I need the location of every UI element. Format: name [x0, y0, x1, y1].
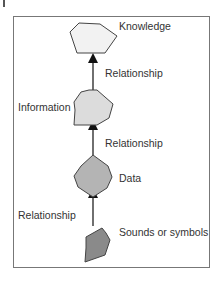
edge-label: Relationship: [18, 209, 76, 221]
node-label-information: Information: [18, 101, 71, 113]
data-shape: [74, 155, 112, 197]
node-label-sounds: Sounds or symbols: [119, 226, 208, 238]
node-label-data: Data: [119, 172, 141, 184]
knowledge-shape: [70, 23, 117, 53]
sounds-shape: [85, 228, 110, 262]
edge-label: Relationship: [105, 137, 163, 149]
edge-label: Relationship: [105, 67, 163, 79]
arrowhead-icon: [88, 53, 98, 63]
node-label-knowledge: Knowledge: [119, 20, 171, 32]
information-shape: [74, 90, 113, 125]
